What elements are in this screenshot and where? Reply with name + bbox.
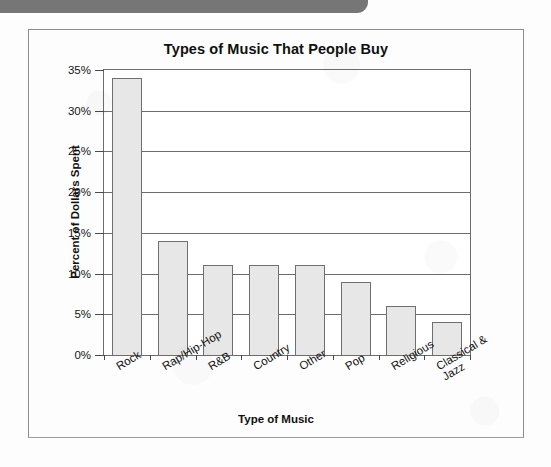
- x-axis-tick: [379, 355, 380, 360]
- y-axis-tick-label: 0%: [74, 349, 91, 361]
- y-axis-tick-label: 20%: [68, 186, 91, 198]
- x-axis-tick: [241, 355, 242, 360]
- y-axis-tick: [95, 111, 104, 112]
- x-axis-tick: [287, 355, 288, 360]
- chart-title: Types of Music That People Buy: [29, 41, 523, 57]
- chart-figure-frame: Types of Music That People Buy Percent o…: [28, 29, 524, 438]
- gridline: [104, 233, 470, 234]
- y-axis-tick-label: 15%: [68, 227, 91, 239]
- y-axis-tick-label: 30%: [68, 105, 91, 117]
- y-axis-tick: [95, 151, 104, 152]
- x-axis-title: Type of Music: [29, 413, 523, 425]
- y-axis-tick: [95, 192, 104, 193]
- y-axis-tick-label: 35%: [68, 64, 91, 76]
- y-axis-tick-label: 5%: [74, 308, 91, 320]
- x-axis-tick: [424, 355, 425, 360]
- x-axis-tick: [333, 355, 334, 360]
- top-banner: [0, 0, 368, 13]
- y-axis-tick: [95, 355, 104, 356]
- y-axis-tick-label: 25%: [68, 145, 91, 157]
- y-axis-tick-label: 10%: [68, 268, 91, 280]
- x-axis-tick: [470, 355, 471, 360]
- y-axis-tick: [95, 70, 104, 71]
- gridline: [104, 151, 470, 152]
- y-axis-tick: [95, 274, 104, 275]
- page-rule: [28, 437, 524, 438]
- gridline: [104, 111, 470, 112]
- bar: [112, 78, 142, 355]
- y-axis-tick: [95, 233, 104, 234]
- bar: [295, 265, 325, 355]
- y-axis-tick: [95, 314, 104, 315]
- bar: [249, 265, 279, 355]
- gridline: [104, 192, 470, 193]
- x-axis-tick: [150, 355, 151, 360]
- x-axis-tick: [104, 355, 105, 360]
- bar: [158, 241, 188, 355]
- bar: [341, 282, 371, 355]
- x-axis-tick: [196, 355, 197, 360]
- scanned-page: Types of Music That People Buy Percent o…: [0, 0, 551, 467]
- plot-area: 0%5%10%15%20%25%30%35% RockRap/Hip-HopR&…: [103, 69, 471, 356]
